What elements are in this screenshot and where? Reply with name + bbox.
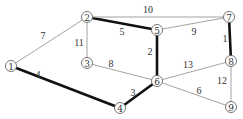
node-label: 3 [84, 59, 90, 69]
edge-1-4 [11, 66, 120, 108]
edge-weight-label: 7 [41, 30, 46, 41]
node-label: 7 [226, 13, 232, 23]
node-label: 1 [8, 62, 14, 72]
edge-weight-label: 5 [120, 26, 125, 37]
edge-weight-label: 11 [74, 37, 84, 48]
node-label: 4 [117, 104, 123, 114]
edge-4-6 [120, 81, 157, 108]
edge-weight-label: 6 [197, 85, 202, 96]
node-label: 8 [228, 57, 234, 67]
edge-weight-label: 8 [109, 58, 114, 69]
edge-3-6 [87, 63, 157, 81]
edge-weight-label: 12 [217, 75, 227, 86]
edge-weight-label: 9 [192, 26, 197, 37]
node-2: 2 [82, 12, 93, 23]
node-3: 3 [82, 58, 93, 69]
edge-weight-label: 1 [223, 33, 228, 44]
node-8: 8 [226, 56, 237, 67]
edge-7-8 [229, 17, 231, 61]
edge-weight-label: 10 [143, 4, 153, 15]
weighted-graph: 74115108329136112 123456789 [0, 0, 243, 119]
node-5: 5 [152, 25, 163, 36]
edge-weight-label: 2 [148, 46, 153, 57]
edge-weight-label: 4 [36, 69, 41, 80]
node-4: 4 [115, 103, 126, 114]
node-9: 9 [226, 102, 237, 113]
node-1: 1 [6, 61, 17, 72]
node-label: 2 [84, 13, 90, 23]
node-label: 5 [154, 26, 160, 36]
edge-weight-label: 13 [183, 59, 193, 70]
edge-weight-label: 3 [131, 87, 136, 98]
node-6: 6 [152, 76, 163, 87]
edge-weights: 74115108329136112 [36, 4, 228, 98]
node-7: 7 [224, 12, 235, 23]
node-label: 6 [154, 77, 160, 87]
node-label: 9 [228, 103, 234, 113]
